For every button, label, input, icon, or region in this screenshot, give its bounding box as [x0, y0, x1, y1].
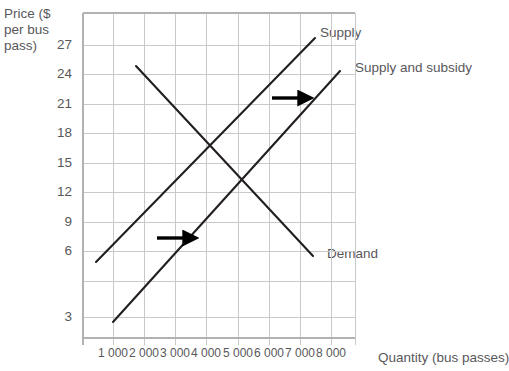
grid-horizontal [83, 45, 355, 317]
axis-lines [83, 13, 355, 345]
supply-and-subsidy-curve [113, 71, 340, 322]
curves [96, 38, 340, 322]
demand-curve [136, 66, 313, 256]
grid-vertical [113, 13, 355, 345]
